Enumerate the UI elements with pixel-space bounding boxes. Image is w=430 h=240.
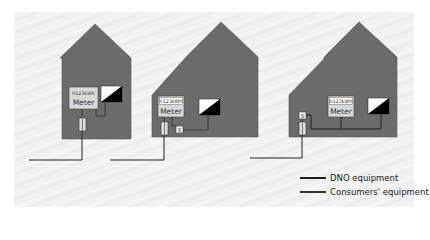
meter-label: Meter xyxy=(73,98,96,107)
consumer-unit-icon xyxy=(368,98,389,114)
switch-label: S xyxy=(178,127,181,133)
legend-item-dno: DNO equipment xyxy=(300,171,429,185)
cutout-fuse-icon xyxy=(79,118,86,131)
cutout-fuse-icon xyxy=(161,122,168,135)
meter-label: Meter xyxy=(160,107,183,116)
house-3: 0123kWh Meter S xyxy=(250,22,397,158)
meter-reading: 0123kWh xyxy=(330,99,353,104)
legend: DNO equipment Consumers' equipment xyxy=(300,171,429,199)
legend-item-consumer: Consumers' equipment xyxy=(300,185,429,199)
legend-label: Consumers' equipment xyxy=(330,185,429,199)
switch-label: S xyxy=(301,113,304,119)
consumer-line-swatch xyxy=(300,191,326,193)
cutout-fuse-icon xyxy=(299,122,306,135)
meter-reading: 0123kWh xyxy=(160,99,183,104)
consumer-unit-icon xyxy=(101,86,122,102)
house-2: 0123kWh Meter S xyxy=(110,22,258,160)
meter-label: Meter xyxy=(330,107,353,116)
dno-line-swatch xyxy=(300,177,326,179)
house-1: 0123kWh Meter xyxy=(29,24,131,160)
legend-label: DNO equipment xyxy=(330,171,398,185)
meter-reading: 0123kWh xyxy=(72,91,95,96)
consumer-unit-icon xyxy=(199,99,220,115)
